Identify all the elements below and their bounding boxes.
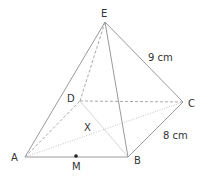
label-d: D <box>67 93 75 104</box>
label-a: A <box>11 152 18 163</box>
pyramid-diagram: E A B C D M X 9 cm 8 cm <box>0 0 209 182</box>
edge-ad-hidden <box>25 101 80 157</box>
measurement-ec: 9 cm <box>148 52 173 63</box>
measurement-bc: 8 cm <box>163 130 188 141</box>
edge-ea <box>25 22 105 157</box>
edge-dc-hidden <box>80 101 183 102</box>
label-c: C <box>188 98 195 109</box>
label-m: M <box>72 161 81 172</box>
label-x: X <box>84 122 91 133</box>
label-b: B <box>134 155 141 166</box>
label-e: E <box>101 8 107 19</box>
point-m-dot <box>74 154 78 158</box>
edge-ed-hidden <box>80 22 105 101</box>
